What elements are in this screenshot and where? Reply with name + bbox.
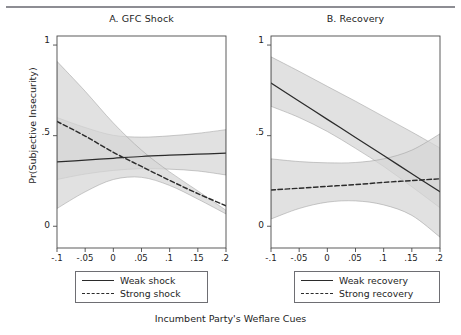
legend-label-weak-recovery: Weak recovery (339, 275, 408, 286)
solid-line-icon (300, 276, 334, 286)
panel-b-plot (267, 36, 440, 252)
legend-item-weak-recovery[interactable]: Weak recovery (300, 274, 408, 287)
dashed-line-icon (81, 289, 115, 299)
legend-item-strong-recovery[interactable]: Strong recovery (300, 287, 413, 300)
panel-a-plot (53, 36, 226, 252)
ci-band-strong-recovery (271, 134, 440, 237)
legend-label-strong-recovery: Strong recovery (339, 288, 413, 299)
legend-panel-a[interactable]: Weak shock Strong shock (75, 271, 208, 303)
legend-panel-b[interactable]: Weak recovery Strong recovery (294, 271, 440, 303)
legend-item-strong-shock[interactable]: Strong shock (81, 287, 181, 300)
solid-line-icon (81, 276, 115, 286)
legend-label-strong-shock: Strong shock (120, 288, 181, 299)
legend-label-weak-shock: Weak shock (120, 275, 175, 286)
dashed-line-icon (300, 289, 334, 299)
legend-item-weak-shock[interactable]: Weak shock (81, 274, 175, 287)
figure-canvas: A. GFC Shock B. Recovery Pr(Subjective I… (0, 0, 461, 335)
